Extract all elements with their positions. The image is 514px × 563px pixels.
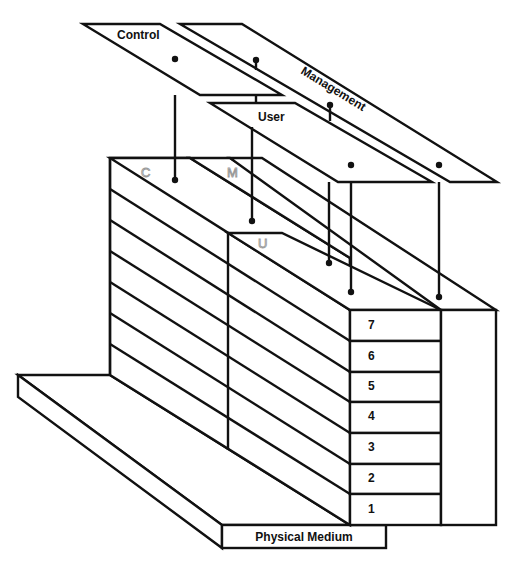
- layer-6-number: 6: [368, 349, 375, 363]
- layer-2-number: 2: [368, 471, 375, 485]
- layer-3: [350, 433, 441, 464]
- protocol-model-diagram: 7 6 5 4 3 2 1 C M U Management Control U…: [0, 0, 514, 563]
- physical-medium-label: Physical Medium: [255, 530, 352, 544]
- layer-7: [350, 310, 441, 341]
- layer-stack-front: 7 6 5 4 3 2 1: [350, 310, 441, 525]
- control-plane-letter: C: [141, 165, 150, 180]
- management-plane-anchor: [436, 162, 442, 168]
- layer-6: [350, 341, 441, 372]
- layer-5: [350, 372, 441, 402]
- layer-7-number: 7: [368, 318, 375, 332]
- layer-1: [350, 494, 441, 525]
- user-plane-label: User: [258, 110, 285, 124]
- layer-2: [350, 464, 441, 494]
- layer-1-number: 1: [368, 502, 375, 516]
- layer-4-number: 4: [368, 409, 375, 423]
- user-plane-letter: U: [258, 236, 267, 251]
- layer-5-number: 5: [368, 379, 375, 393]
- management-side-panel: [441, 310, 496, 525]
- management-plane-letter: M: [227, 165, 238, 180]
- control-plane-label: Control: [117, 28, 160, 42]
- layer-3-number: 3: [368, 440, 375, 454]
- user-plane-anchor: [348, 162, 354, 168]
- control-plane-anchor: [172, 56, 178, 62]
- layer-4: [350, 402, 441, 433]
